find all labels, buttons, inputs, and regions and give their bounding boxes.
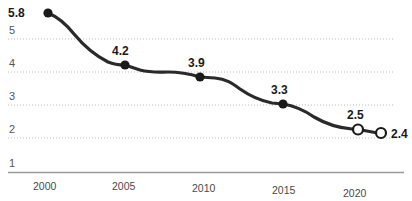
y-axis-tick-label: 5 <box>9 24 15 36</box>
data-value-label: 3.3 <box>271 83 288 97</box>
y-axis-tick-labels: 5 4 3 2 1 <box>9 24 15 169</box>
y-axis-tick-label: 1 <box>9 157 15 169</box>
x-axis-tick-label: 2000 <box>33 180 57 192</box>
data-value-label: 3.9 <box>188 56 205 70</box>
series-line <box>48 13 358 129</box>
data-point-marker-projected <box>353 125 363 135</box>
x-axis-tick-labels: 2000 2005 2010 2015 2020 <box>33 180 367 199</box>
data-value-label: 2.4 <box>391 127 408 141</box>
data-point-marker <box>120 60 129 69</box>
data-point-markers <box>43 8 386 138</box>
data-point-marker <box>278 99 287 108</box>
chart-canvas: 5 4 3 2 1 5.8 4.2 3.9 3.3 2.5 2.4 2000 <box>0 0 412 201</box>
data-value-label: 5.8 <box>8 6 25 20</box>
x-axis-tick-label: 2010 <box>192 182 216 194</box>
data-value-label: 4.2 <box>112 44 129 58</box>
y-axis-tick-label: 3 <box>9 90 15 102</box>
gridlines <box>8 39 395 138</box>
y-axis-tick-label: 2 <box>9 123 15 135</box>
data-value-label: 2.5 <box>347 108 364 122</box>
series-line-segment-hollow <box>364 131 375 133</box>
data-point-marker <box>43 8 52 17</box>
x-axis-tick-label: 2015 <box>272 184 296 196</box>
data-point-marker-projected <box>376 128 386 138</box>
x-axis-tick-label: 2005 <box>112 180 136 192</box>
x-axis-tick-label: 2020 <box>343 187 367 199</box>
data-point-marker <box>195 72 204 81</box>
line-chart: 5 4 3 2 1 5.8 4.2 3.9 3.3 2.5 2.4 2000 <box>0 0 412 201</box>
y-axis-tick-label: 4 <box>9 57 15 69</box>
